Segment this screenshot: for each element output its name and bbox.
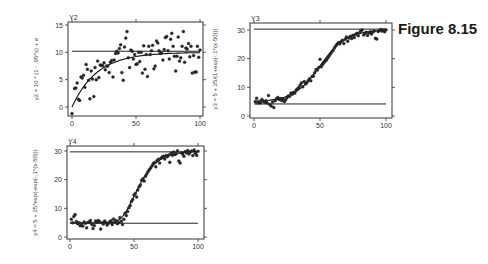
data-point bbox=[78, 99, 81, 102]
y-tick-label: 20 bbox=[237, 55, 245, 62]
data-point bbox=[175, 152, 178, 155]
data-point bbox=[122, 218, 125, 221]
data-point bbox=[132, 57, 135, 60]
data-point bbox=[190, 45, 193, 48]
y-tick-label: 15 bbox=[55, 22, 63, 29]
y-tick-label: 10 bbox=[237, 84, 245, 91]
data-point bbox=[115, 219, 118, 222]
data-point bbox=[178, 60, 181, 63]
data-point bbox=[85, 63, 88, 66]
data-point bbox=[179, 56, 182, 59]
data-point bbox=[120, 220, 123, 223]
data-point bbox=[293, 92, 296, 95]
data-point bbox=[71, 112, 74, 115]
data-point bbox=[199, 49, 202, 52]
x-tick-label: 0 bbox=[70, 120, 74, 127]
x-tick-label: 100 bbox=[194, 120, 206, 127]
data-point bbox=[122, 79, 125, 82]
data-point bbox=[160, 51, 163, 54]
data-point bbox=[135, 195, 138, 198]
data-point bbox=[90, 69, 93, 72]
data-point bbox=[83, 86, 86, 89]
data-point bbox=[99, 228, 102, 231]
data-point bbox=[119, 43, 122, 46]
data-point bbox=[154, 65, 157, 68]
data-point bbox=[353, 36, 356, 39]
x-tick-label: 0 bbox=[68, 243, 72, 250]
data-point bbox=[91, 78, 94, 81]
data-point bbox=[168, 161, 171, 164]
data-point bbox=[120, 71, 123, 74]
data-point bbox=[151, 44, 154, 47]
data-point bbox=[117, 51, 120, 54]
data-point bbox=[76, 81, 79, 84]
data-point bbox=[126, 30, 129, 33]
x-tick-label: 0 bbox=[252, 122, 256, 129]
data-point bbox=[101, 64, 104, 67]
y-tick-label: 0 bbox=[59, 104, 63, 111]
data-point bbox=[301, 85, 304, 88]
y-axis-title: y2 = 10 * (1 - .95^x) + e bbox=[33, 37, 39, 100]
data-point bbox=[97, 76, 100, 79]
data-point bbox=[125, 214, 128, 217]
data-point bbox=[176, 149, 179, 152]
panel-title: Y2 bbox=[69, 14, 78, 21]
data-point bbox=[186, 48, 189, 51]
data-point bbox=[341, 39, 344, 42]
data-point bbox=[163, 158, 166, 161]
data-point bbox=[93, 224, 96, 227]
data-point bbox=[136, 189, 139, 192]
panel-y4: Y40102030050100y4 = 5 + 25*exp(-exp(-.1*… bbox=[32, 138, 207, 250]
data-point bbox=[375, 37, 378, 40]
data-point bbox=[103, 61, 106, 64]
data-point bbox=[179, 162, 182, 165]
data-point bbox=[272, 106, 275, 109]
data-point bbox=[112, 75, 115, 78]
data-point bbox=[106, 65, 109, 68]
data-point bbox=[127, 56, 130, 59]
data-point bbox=[144, 68, 147, 71]
data-point bbox=[113, 59, 116, 62]
y-axis-title-right: y3 = 5 + 25/(1+exp(-.1*(x-50))) bbox=[212, 28, 218, 109]
panel-y3: Y30102030050100 bbox=[237, 15, 395, 129]
data-point bbox=[81, 225, 84, 228]
data-point bbox=[92, 95, 95, 98]
data-point bbox=[259, 101, 262, 104]
data-point bbox=[85, 226, 88, 229]
data-point bbox=[86, 68, 89, 71]
y-tick-label: 20 bbox=[54, 176, 62, 183]
data-point bbox=[81, 77, 84, 80]
data-point bbox=[118, 216, 121, 219]
data-point bbox=[136, 62, 139, 65]
data-point bbox=[163, 48, 166, 51]
data-point bbox=[95, 78, 98, 81]
data-point bbox=[134, 192, 137, 195]
data-point bbox=[143, 180, 146, 183]
data-point bbox=[182, 30, 185, 33]
data-point bbox=[196, 45, 199, 48]
data-point bbox=[193, 148, 196, 151]
x-tick-label: 50 bbox=[132, 120, 140, 127]
data-point bbox=[346, 40, 349, 43]
x-tick-label: 100 bbox=[380, 122, 392, 129]
data-point bbox=[267, 94, 270, 97]
data-point bbox=[82, 74, 85, 77]
data-point bbox=[78, 221, 81, 224]
data-point bbox=[176, 55, 179, 58]
panel-title: Y3 bbox=[251, 15, 260, 22]
y-tick-label: 5 bbox=[59, 76, 63, 83]
data-point bbox=[87, 79, 90, 82]
data-point bbox=[96, 60, 99, 63]
data-point bbox=[361, 29, 364, 32]
data-point bbox=[385, 28, 388, 31]
data-point bbox=[94, 66, 97, 69]
data-point bbox=[129, 204, 132, 207]
figure-canvas: Y2051015050100y2 = 10 * (1 - .95^x) + ey… bbox=[0, 0, 488, 264]
data-point bbox=[71, 221, 74, 224]
x-tick-label: 50 bbox=[316, 122, 324, 129]
data-point bbox=[138, 60, 141, 63]
data-point bbox=[197, 56, 200, 59]
panel-title: Y4 bbox=[68, 138, 77, 145]
data-point bbox=[108, 71, 111, 74]
data-point bbox=[192, 54, 195, 57]
